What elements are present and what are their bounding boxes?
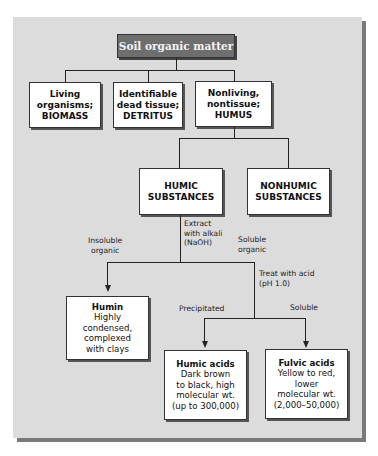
node-text: Dark brown [181,369,231,380]
node-text: Yellow to red, [278,368,335,379]
node-humic-acids: Humic acids Dark brown to black, high mo… [164,350,247,420]
node-text: SUBSTANCES [148,192,214,203]
node-text: molecular wt. [176,390,235,401]
connector [254,262,255,319]
label-treat-acid: Treat with acid (pH 1.0) [259,269,314,288]
node-text: with clays [86,344,129,355]
connector [179,138,288,139]
connector [107,262,108,286]
node-text: lower [295,379,319,390]
node-text: BIOMASS [42,111,88,122]
node-text: complexed [84,333,131,344]
label-extract-alkali: Extract with alkali (NaOH) [184,219,222,248]
label-precipitated: Precipitated [179,304,224,314]
connector [107,262,255,263]
label-text: Extract [184,219,222,229]
label-soluble: Soluble [290,303,318,313]
root-node-soil-organic-matter: Soil organic matter [117,34,235,58]
connector [204,318,205,342]
node-text: Living [50,89,81,100]
connector [288,138,289,168]
label-text: organic [88,246,122,256]
node-biomass: Living organisms; BIOMASS [29,82,101,128]
node-fulvic-acids: Fulvic acids Yellow to red, lower molecu… [265,349,348,419]
node-text: DETRITUS [123,111,173,122]
node-text: (up to 300,000) [172,401,239,412]
node-text: SUBSTANCES [255,192,321,203]
node-text: HUMIC [164,181,198,192]
label-soluble-organic: Soluble organic [238,235,266,254]
arrow-down-icon [303,341,309,348]
label-insoluble-organic: Insoluble organic [88,236,122,255]
node-text: nontissue; [207,99,260,110]
arrow-down-icon [202,341,208,348]
node-text: NONHUMIC [260,181,316,192]
node-text: organisms; [37,100,93,111]
arrow-down-icon [105,285,111,292]
label-text: (pH 1.0) [259,279,314,289]
node-text: dead tissue; [117,100,179,111]
connector [180,215,181,263]
connector [148,70,149,82]
node-text: HUMUS [215,110,253,121]
connector [179,138,180,168]
node-title: Humic acids [176,359,234,370]
node-title: Fulvic acids [278,358,334,369]
label-text: (NaOH) [184,238,222,248]
connector [65,70,66,82]
node-humin: Humin Highly condensed, complexed with c… [66,296,149,360]
connector [65,70,235,71]
label-text: with alkali [184,229,222,239]
node-title: Humin [92,302,123,313]
node-text: to black, high [176,380,234,391]
label-text: Insoluble [88,236,122,246]
node-text: Identifiable [119,89,177,100]
label-text: organic [238,245,266,255]
node-humic-substances: HUMIC SUBSTANCES [139,168,223,215]
connector [305,318,306,342]
node-text: (2,000–50,000) [274,400,340,411]
label-text: Treat with acid [259,269,314,279]
connector [204,318,306,319]
label-text: Soluble [238,235,266,245]
node-nonhumic-substances: NONHUMIC SUBSTANCES [247,168,330,215]
node-humus: Nonliving, nontissue; HUMUS [195,81,272,127]
node-text: Highly [94,312,121,323]
node-detritus: Identifiable dead tissue; DETRITUS [113,82,183,128]
node-text: condensed, [83,323,133,334]
node-text: Nonliving, [208,88,260,99]
node-text: molecular wt. [277,389,336,400]
